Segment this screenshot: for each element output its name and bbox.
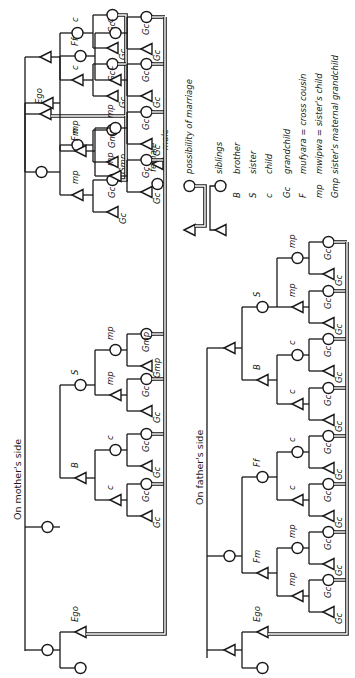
child-circle-icon <box>110 445 121 456</box>
child-circle-icon <box>292 350 303 361</box>
node-label: Gc <box>141 23 151 35</box>
node-label: Gc <box>152 466 162 478</box>
legend-meaning-F: mufyara = cross cousin <box>298 74 308 175</box>
legend-meaning-S: sister <box>248 150 258 174</box>
node-label: Gc <box>323 586 333 598</box>
node-label: Gc <box>141 166 151 178</box>
ego-sibling-circle-icon <box>75 663 86 674</box>
grandchild-triangle-icon <box>323 269 334 280</box>
node-label: c <box>105 435 115 440</box>
sister-circle-icon <box>75 380 86 391</box>
node-label: Gc <box>152 516 162 528</box>
legend-abbr-Gc: Gc <box>282 186 292 198</box>
node-label: Gc <box>141 70 151 82</box>
node-label: c <box>70 17 80 22</box>
node-label: Gc <box>107 186 117 198</box>
node-label: c <box>287 437 297 442</box>
node-label: mp <box>105 152 115 166</box>
grandchild-circle-icon <box>323 334 334 345</box>
node-label: mp <box>287 524 297 538</box>
node-label: c <box>105 18 115 23</box>
node-label: c <box>70 65 80 70</box>
node-label: c <box>105 485 115 490</box>
legend-meaning-c: child <box>264 153 274 174</box>
paternal-grandparent-triangle-icon <box>224 343 235 354</box>
node-label: Gc <box>334 323 344 335</box>
node-label: Gc <box>323 248 333 260</box>
ff-circle-icon <box>257 472 268 483</box>
node-label: Gc <box>141 118 151 130</box>
mothers-side-tree: On mother's sideFfcGcGccGcGcFmmpGcGcmpGc… <box>12 12 165 674</box>
grandchild-circle-icon <box>323 237 334 248</box>
legend-marriage-label: possibility of marriage <box>184 79 194 175</box>
grandchild-circle-icon <box>323 575 334 586</box>
legend-meaning-B: brother <box>232 142 242 174</box>
grandchild-triangle-icon <box>141 44 152 55</box>
mwipwa-circle-icon <box>110 123 121 134</box>
fathers-side-tree: On father's sideSmpGcGcmpGcGcBcGcGccGcGc… <box>194 234 347 673</box>
node-label: Gc <box>334 468 344 480</box>
grandchild-triangle-icon <box>323 415 334 426</box>
ego-triangle-icon <box>40 109 51 120</box>
legend-female-circle-icon <box>152 179 163 190</box>
node-label: c <box>287 485 297 490</box>
kinship-diagram: EgoccGcGcGcGcmpmpGmpGmpGcGc femalemalepo… <box>0 0 355 678</box>
legend-abbr-F: F <box>298 193 308 198</box>
node-label: mp <box>287 572 297 586</box>
child-circle-icon <box>72 28 83 39</box>
mwipwa-triangle-icon <box>292 591 303 602</box>
mwipwa-triangle-icon <box>72 190 83 201</box>
node-label: Gc <box>334 516 344 528</box>
legend-marriage-male-triangle-icon <box>184 225 195 236</box>
tree-title: On mother's side <box>12 439 23 520</box>
child-triangle-icon <box>110 495 121 506</box>
node-label: Gc <box>334 371 344 383</box>
legend-siblings-label: siblings <box>214 141 224 174</box>
node-label: Gc <box>323 538 333 550</box>
child-triangle-icon <box>292 399 303 410</box>
ego-label: Ego <box>252 606 262 622</box>
legend-meaning-Gmp: sister's maternal grandchild <box>330 54 340 174</box>
legend-abbr-mp: mp <box>314 184 324 198</box>
legend-marriage-female-circle-icon <box>184 181 195 192</box>
grandchild-triangle-icon <box>323 559 334 570</box>
node-label: Gc <box>323 490 333 502</box>
node-label: S <box>70 369 80 375</box>
child-triangle-icon <box>292 495 303 506</box>
brother-triangle-icon <box>40 52 51 63</box>
fm-triangle-icon <box>257 568 268 579</box>
node-label: Gc <box>152 96 162 108</box>
node-label: Fm <box>70 128 80 141</box>
grandchild-triangle-icon <box>323 463 334 474</box>
ego-parent-circle-icon <box>42 645 53 656</box>
mwipwa-circle-icon <box>292 543 303 554</box>
grandchild-circle-icon <box>323 479 334 490</box>
mwipwa-triangle-icon <box>110 390 121 401</box>
node-label: B <box>70 462 80 468</box>
node-label: c <box>287 340 297 345</box>
grandchild-triangle-icon <box>141 361 152 372</box>
connector-line <box>210 186 215 230</box>
node-label: mp <box>105 371 115 385</box>
node-label: B <box>252 364 262 370</box>
node-label: Gc <box>323 345 333 357</box>
grandchild-circle-icon <box>141 479 152 490</box>
node-label: Gc <box>118 212 128 224</box>
legend-abbr-S: S <box>248 192 258 198</box>
grandchild-triangle-icon <box>107 207 118 218</box>
grandchild-triangle-icon <box>141 511 152 522</box>
node-label: c <box>287 389 297 394</box>
legend-sibling-male-triangle-icon <box>215 225 226 236</box>
node-label: Gc <box>152 192 162 204</box>
father-sibling-circle-icon <box>224 551 235 562</box>
brother-triangle-icon <box>75 473 86 484</box>
grandchild-triangle-icon <box>323 607 334 618</box>
node-label: c <box>105 65 115 70</box>
mwipwa-triangle-icon <box>292 302 303 313</box>
legend: femalemalepossibility of marriagesibling… <box>148 54 340 235</box>
node-label: Fm <box>252 550 262 563</box>
grandchild-triangle-icon <box>141 187 152 198</box>
node-label: Gc <box>152 49 162 61</box>
grandchild-circle-icon <box>141 12 152 23</box>
node-label: Gc <box>141 490 151 502</box>
